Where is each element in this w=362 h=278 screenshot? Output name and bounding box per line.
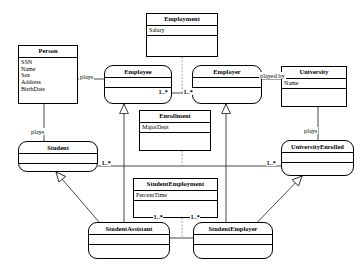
class-university-attributes: Name — [282, 79, 346, 89]
class-employer-name: Employer — [193, 66, 261, 78]
class-employee[interactable]: Employee — [104, 65, 172, 104]
class-employment-operations — [147, 36, 217, 43]
multiplicity-employer: 1..* — [183, 88, 193, 95]
label-plays-university-enrolled: plays — [303, 127, 318, 134]
class-student-assistant[interactable]: StudentAssistant — [88, 222, 170, 259]
class-university[interactable]: University Name — [281, 66, 347, 107]
attribute: BirthDate — [21, 86, 77, 93]
attribute: Address — [21, 79, 77, 86]
label-plays-employee: plays — [79, 73, 94, 80]
class-student[interactable]: Student — [18, 141, 98, 172]
class-student-attributes — [19, 154, 97, 164]
label-plays-student: plays — [30, 128, 45, 135]
class-student-employment-attributes: PercentTime — [134, 191, 217, 201]
class-student-employment[interactable]: StudentEmployment PercentTime — [133, 178, 218, 218]
class-employer[interactable]: Employer — [192, 65, 262, 104]
multiplicity-student: 1..* — [101, 159, 111, 166]
class-university-operations — [282, 89, 346, 96]
class-student-assistant-attributes — [89, 235, 169, 245]
class-person[interactable]: Person SSN Name Sex Address BirthDate — [18, 45, 78, 104]
label-played-by-university: played by — [259, 72, 286, 79]
attribute: MajorDept — [142, 124, 210, 131]
class-employment-attributes: Salary — [147, 26, 217, 36]
class-student-assistant-name: StudentAssistant — [89, 223, 169, 235]
class-university-enrolled-operations — [282, 163, 353, 170]
multiplicity-employee: 1..* — [158, 88, 168, 95]
class-university-enrolled-attributes — [282, 153, 353, 163]
class-employee-name: Employee — [105, 66, 171, 78]
attribute: Salary — [149, 27, 217, 34]
class-student-employer-attributes — [194, 235, 272, 245]
class-student-name: Student — [19, 142, 97, 154]
class-employment[interactable]: Employment Salary — [146, 13, 218, 57]
attribute: SSN — [21, 59, 77, 66]
class-enrollment-attributes: MajorDept — [140, 123, 210, 133]
class-student-employment-operations — [134, 201, 217, 208]
class-employee-attributes — [105, 78, 171, 88]
multiplicity-student-assistant: 1..* — [153, 213, 163, 220]
class-employer-operations — [193, 88, 261, 95]
class-university-enrolled[interactable]: UniversityEnrolled — [281, 140, 354, 176]
attribute: Name — [284, 80, 346, 87]
class-student-employment-name: StudentEmployment — [134, 179, 217, 191]
class-enrollment[interactable]: Enrollment MajorDept — [139, 110, 211, 151]
class-student-employer[interactable]: StudentEmployer — [193, 222, 273, 259]
class-enrollment-operations — [140, 133, 210, 140]
class-person-attributes: SSN Name Sex Address BirthDate — [19, 58, 77, 94]
class-student-employer-name: StudentEmployer — [194, 223, 272, 235]
class-employer-attributes — [193, 78, 261, 88]
attribute: Name — [21, 66, 77, 73]
class-university-name: University — [282, 67, 346, 79]
class-university-enrolled-name: UniversityEnrolled — [282, 141, 353, 153]
multiplicity-student-employer: 1..* — [190, 213, 200, 220]
attribute: Sex — [21, 72, 77, 79]
uml-diagram-canvas: Person SSN Name Sex Address BirthDate Em… — [0, 0, 362, 278]
multiplicity-university-enrolled: 1..* — [266, 159, 276, 166]
class-enrollment-name: Enrollment — [140, 111, 210, 123]
class-employment-name: Employment — [147, 14, 217, 26]
attribute: PercentTime — [136, 192, 217, 199]
class-student-employer-operations — [194, 245, 272, 252]
class-student-assistant-operations — [89, 245, 169, 252]
class-student-operations — [19, 164, 97, 171]
class-person-name: Person — [19, 46, 77, 58]
